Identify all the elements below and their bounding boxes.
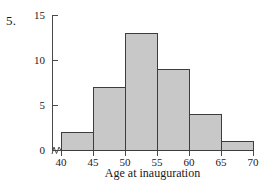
- y-tick-15: 15: [0, 15, 58, 16]
- y-tick-mark: [53, 60, 58, 61]
- histogram-figure: 5. 15 10 5 0 40 45: [0, 0, 263, 184]
- histogram-bar: [157, 69, 190, 151]
- histogram-bar: [61, 132, 94, 151]
- y-tick-0: 0: [0, 150, 58, 151]
- histogram-bar: [221, 141, 254, 151]
- y-tick-5: 5: [0, 105, 58, 106]
- histogram-bar: [189, 114, 222, 151]
- histogram-bar: [93, 87, 126, 151]
- y-tick-mark: [53, 15, 58, 16]
- y-tick-label: 5: [23, 100, 45, 111]
- y-tick-mark: [53, 105, 58, 106]
- y-tick-10: 10: [0, 60, 58, 61]
- y-tick-label: 0: [23, 145, 45, 156]
- x-axis-title: Age at inauguration: [52, 167, 253, 179]
- histogram-bar: [125, 33, 158, 151]
- plot-area: 15 10 5 0 40 45 50 55 60 65 70: [0, 0, 263, 184]
- y-axis-line: [52, 15, 53, 151]
- y-tick-label: 15: [23, 10, 45, 21]
- y-tick-label: 10: [23, 55, 45, 66]
